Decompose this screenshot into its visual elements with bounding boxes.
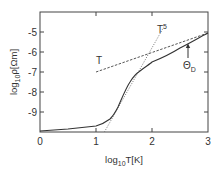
y-tick-label-8: -8 — [28, 87, 37, 98]
y-ticks — [40, 32, 208, 112]
x-ticks — [96, 12, 152, 132]
x-axis-label: log10T[K] — [105, 154, 143, 167]
annotation-theta-d: ΘD — [183, 60, 196, 73]
resistivity-chart: 0 1 2 3 -5 -6 -7 -8 -9 log10T[K] log10ρ[… — [0, 0, 217, 176]
annotation-t5: T5 — [157, 23, 167, 35]
y-tick-label-5: -5 — [28, 27, 37, 38]
resistivity-curve — [40, 33, 208, 131]
t5-asymptote — [104, 28, 163, 132]
annotation-t: T — [96, 55, 102, 66]
y-axis-label: log10ρ[Ωm] — [8, 49, 21, 95]
plot-frame — [40, 12, 208, 132]
y-tick-label-6: -6 — [28, 47, 37, 58]
y-tick-label-7: -7 — [28, 67, 37, 78]
x-tick-label-1: 1 — [93, 136, 99, 147]
x-tick-label-3: 3 — [205, 136, 211, 147]
x-tick-label-0: 0 — [37, 136, 43, 147]
y-tick-label-9: -9 — [28, 107, 37, 118]
x-tick-label-2: 2 — [149, 136, 155, 147]
